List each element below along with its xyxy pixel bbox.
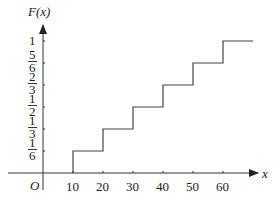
x-tick-40: 40 [156, 179, 169, 194]
origin-label: O [30, 178, 40, 193]
x-ticks: 10 20 30 40 50 60 [66, 171, 229, 194]
x-tick-10: 10 [66, 179, 79, 194]
x-tick-20: 20 [96, 179, 109, 194]
y-ticks: 1 5 6 2 3 1 2 1 3 1 6 [28, 33, 45, 163]
y-tick-1: 1 [29, 33, 36, 48]
cdf-step-line [73, 41, 253, 173]
x-tick-30: 30 [126, 179, 139, 194]
svg-text:6: 6 [29, 148, 36, 163]
x-tick-60: 60 [216, 179, 229, 194]
y-axis-label: F(x) [27, 4, 50, 19]
cdf-step-chart: F(x) x O 10 20 30 40 50 60 1 5 6 2 [0, 0, 278, 201]
x-tick-50: 50 [186, 179, 199, 194]
x-axis-label: x [261, 166, 268, 181]
y-tick-1-6: 1 6 [28, 135, 37, 163]
